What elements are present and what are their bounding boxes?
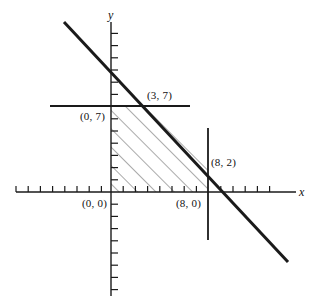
point-label-x-point: (8, 0) (176, 197, 201, 209)
feasible-region (111, 106, 208, 192)
point-label-origin: (0, 0) (82, 197, 107, 209)
point-label-y-intercept: (0, 7) (80, 110, 105, 122)
diagonal-constraint-line (64, 22, 288, 262)
coordinate-plane-svg (0, 0, 316, 308)
graph-figure: (0, 0) (0, 7) (3, 7) (8, 2) (8, 0) x y (0, 0, 316, 308)
point-label-vertex-top: (3, 7) (147, 89, 172, 101)
point-label-vertex-right: (8, 2) (211, 156, 236, 168)
x-axis-label: x (299, 185, 304, 200)
y-axis-label: y (108, 8, 113, 23)
